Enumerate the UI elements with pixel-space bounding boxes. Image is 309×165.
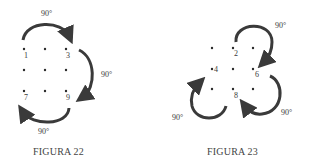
grid-label-4: 4	[214, 65, 218, 74]
rotation-label-bottom: 90°	[38, 127, 49, 136]
dot-grid	[23, 48, 67, 92]
rotation-label-top-right: 90°	[275, 21, 286, 30]
rotation-arrow-icon	[245, 76, 280, 114]
rotation-arrow-icon	[79, 50, 92, 97]
rotation-arrow-icon	[23, 24, 69, 40]
rotation-label-bottom-right: 90°	[281, 108, 292, 117]
rotation-arrow-icon	[236, 26, 272, 62]
grid-label-7: 7	[24, 93, 28, 102]
rotation-label-right: 90°	[101, 70, 112, 79]
rotation-label-top: 90°	[41, 9, 52, 18]
figure-22	[23, 24, 93, 122]
figure-23	[191, 26, 280, 118]
rotation-arrow-icon	[23, 108, 69, 122]
rotation-arrow-icon	[191, 83, 226, 118]
figure-caption: FIGURA 22	[33, 146, 84, 157]
figures-canvas	[0, 0, 309, 165]
grid-label-6: 6	[255, 70, 259, 79]
grid-label-1: 1	[24, 51, 28, 60]
grid-label-3: 3	[66, 51, 70, 60]
grid-label-9: 9	[66, 93, 70, 102]
grid-label-2: 2	[234, 49, 238, 58]
figure-caption: FIGURA 23	[207, 146, 258, 157]
grid-label-8: 8	[234, 91, 238, 100]
rotation-label-bottom-left: 90°	[172, 113, 183, 122]
